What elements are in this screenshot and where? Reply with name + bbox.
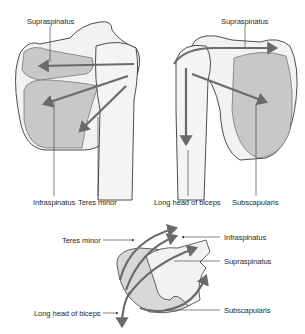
anterior-view [174,26,297,200]
rotator-cuff-diagram [0,0,305,334]
label-subscapularis: Subscapularis [232,198,278,207]
superior-view [103,228,220,326]
label-teres-minor-superior: Teres minor [62,236,101,245]
label-supraspinatus-posterior: Supraspinatus [27,17,74,26]
label-infraspinatus-superior: Infraspinatus [224,233,266,242]
label-subscapularis-superior: Subscapularis [224,306,270,315]
label-long-head-biceps: Long head of biceps [154,198,221,207]
humerus-posterior [96,42,138,200]
label-infraspinatus: Infraspinatus [33,198,75,207]
posterior-view [16,22,140,200]
label-long-head-biceps-superior: Long head of biceps [34,309,101,318]
subscapularis-muscle [232,52,292,158]
label-supraspinatus-superior: Supraspinatus [224,257,271,266]
label-supraspinatus-anterior: Supraspinatus [221,17,268,26]
humerus-anterior [176,45,211,200]
label-teres-minor: Teres minor [78,198,117,207]
